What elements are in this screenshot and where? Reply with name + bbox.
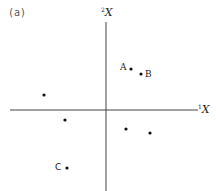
data-point-c — [65, 166, 68, 169]
x-axis-label-name: X — [202, 103, 210, 116]
y-axis-label-name: X — [105, 6, 113, 19]
point-label-a: A — [120, 63, 127, 72]
y-axis-label: 2X — [101, 7, 113, 18]
data-points — [42, 67, 151, 169]
data-point-p3 — [42, 93, 45, 96]
data-point-p5 — [124, 127, 127, 130]
data-point-p4 — [63, 118, 66, 121]
scatter-diagram: (a) 2X 1X A B C — [0, 0, 216, 191]
x-axis-label: 1X — [198, 104, 210, 115]
data-point-b — [139, 72, 142, 75]
point-label-c: C — [55, 163, 61, 172]
panel-label: (a) — [8, 8, 26, 18]
data-point-p6 — [148, 131, 151, 134]
point-label-b: B — [145, 70, 152, 79]
data-point-a — [129, 67, 132, 70]
